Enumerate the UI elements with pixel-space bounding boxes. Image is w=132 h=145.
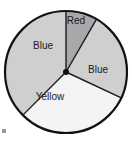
pie-chart-svg: RedBlueYellowBlue	[0, 0, 132, 145]
pie-slice-label-yellow-2: Yellow	[36, 91, 65, 102]
pie-center-hub	[63, 69, 69, 75]
pie-slice-label-blue-1: Blue	[88, 64, 108, 75]
pie-slice-label-blue-3: Blue	[33, 40, 53, 51]
pie-slice-label-red-0: Red	[67, 15, 85, 26]
corner-artifact-mark	[2, 129, 6, 133]
pie-chart-figure: RedBlueYellowBlue	[0, 0, 132, 145]
